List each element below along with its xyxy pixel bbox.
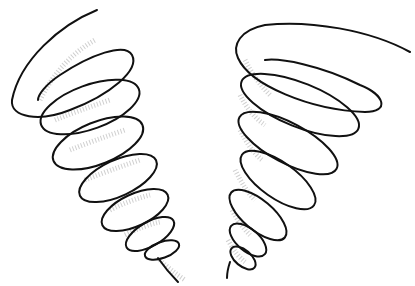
left-tornado-drawing [0,0,415,286]
right-tornado [222,24,410,278]
illustration-canvas [0,0,415,286]
left-tornado [12,10,185,282]
